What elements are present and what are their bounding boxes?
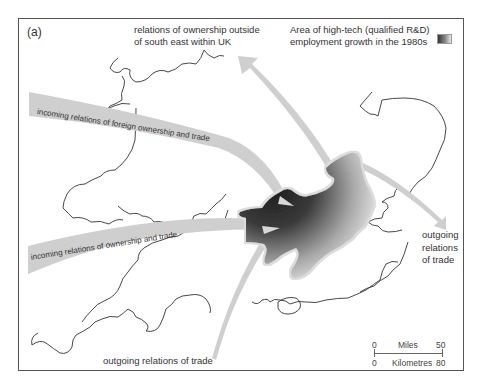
legend-label: Area of high-tech (qualified R&D) employ…	[290, 24, 429, 48]
flow-arrows	[28, 56, 446, 360]
km-label: Kilometres	[392, 358, 432, 368]
east-outgoing-label: outgoing relations of trade	[422, 229, 458, 267]
east-outgoing-line2: relations	[422, 242, 458, 255]
legend-line2: employment growth in the 1980s	[290, 36, 429, 48]
scale-tick-start	[374, 349, 375, 357]
km-start: 0	[372, 358, 377, 368]
miles-end: 50	[436, 340, 445, 350]
scale-bar: 0 Miles 50 0 Kilometres 80	[372, 344, 452, 374]
east-outgoing-line3: of trade	[422, 254, 458, 267]
panel-label: (a)	[27, 25, 42, 39]
miles-label: Miles	[398, 340, 418, 350]
scale-tick-end	[442, 349, 443, 357]
scale-line	[374, 353, 442, 354]
east-outgoing-line1: outgoing	[422, 229, 458, 242]
southern-england-map	[0, 0, 480, 389]
km-end: 80	[436, 358, 445, 368]
legend-line1: Area of high-tech (qualified R&D)	[290, 24, 429, 36]
coastline	[32, 50, 446, 353]
north-annotation-line2: of south east within UK	[134, 36, 231, 48]
north-annotation-line1: relations of ownership outside	[134, 24, 260, 36]
legend-gradient-swatch	[437, 34, 452, 44]
south-outgoing-label: outgoing relations of trade	[103, 355, 213, 367]
